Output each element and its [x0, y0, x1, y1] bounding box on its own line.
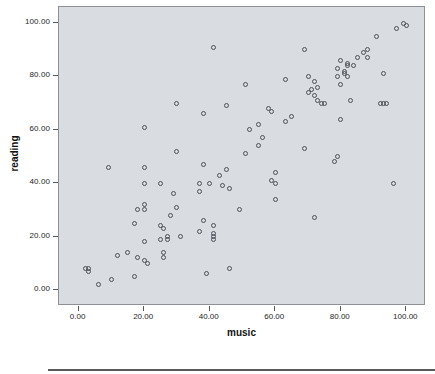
data-point [243, 151, 248, 156]
data-point [204, 271, 209, 276]
data-points-layer [59, 7, 424, 304]
data-point [335, 66, 340, 71]
footer-divider [48, 369, 435, 371]
data-point [381, 71, 386, 76]
data-point [132, 221, 137, 226]
data-point [247, 127, 252, 132]
data-point [211, 223, 216, 228]
data-point [404, 23, 409, 28]
data-point [345, 63, 350, 68]
plot-area [58, 6, 425, 305]
x-axis-tick [143, 306, 144, 311]
data-point [135, 255, 140, 260]
data-point [145, 261, 150, 266]
data-point [315, 85, 320, 90]
data-point [224, 103, 229, 108]
x-axis-tick-label: 20.00 [123, 312, 163, 321]
x-axis-title: music [58, 327, 425, 338]
x-axis-tick [340, 306, 341, 311]
data-point [256, 143, 261, 148]
data-point [142, 207, 147, 212]
data-point [322, 101, 327, 106]
y-axis-tick-label: 60.00 [29, 124, 50, 133]
data-point [211, 45, 216, 50]
data-point [273, 170, 278, 175]
data-point [165, 237, 170, 242]
data-point [158, 237, 163, 242]
x-axis-tick [209, 306, 210, 311]
x-axis-tick-label: 60.00 [254, 312, 294, 321]
data-point [201, 162, 206, 167]
data-point [312, 215, 317, 220]
data-point [115, 253, 120, 258]
data-point [161, 255, 166, 260]
y-axis-tick-label: 0.00 [34, 284, 50, 293]
x-axis-tick-label: 100.00 [385, 312, 425, 321]
data-point [309, 87, 314, 92]
data-point [312, 79, 317, 84]
data-point [260, 135, 265, 140]
data-point [237, 207, 242, 212]
data-point [283, 77, 288, 82]
data-point [217, 173, 222, 178]
data-point [211, 237, 216, 242]
x-axis-tick-label: 0.00 [58, 312, 98, 321]
y-axis-tick-label: 20.00 [29, 231, 50, 240]
data-point [335, 74, 340, 79]
data-point [273, 181, 278, 186]
data-point [197, 181, 202, 186]
data-point [348, 98, 353, 103]
data-point [201, 111, 206, 116]
data-point [96, 282, 101, 287]
data-point [227, 186, 232, 191]
data-point [197, 189, 202, 194]
data-point [365, 47, 370, 52]
data-point [125, 250, 130, 255]
data-point [227, 266, 232, 271]
data-point [338, 117, 343, 122]
y-axis-tick-label: 40.00 [29, 177, 50, 186]
data-point [224, 167, 229, 172]
data-point [142, 239, 147, 244]
data-point [338, 82, 343, 87]
data-point [365, 55, 370, 60]
data-point [174, 101, 179, 106]
data-point [345, 74, 350, 79]
data-point [106, 165, 111, 170]
scatter-plot-figure: 0.0020.0040.0060.0080.00100.00 reading 0… [0, 0, 435, 374]
data-point [355, 55, 360, 60]
data-point [351, 63, 356, 68]
data-point [306, 74, 311, 79]
y-axis-title: reading [9, 119, 20, 189]
data-point [338, 58, 343, 63]
y-axis-tick-label: 80.00 [29, 70, 50, 79]
data-point [174, 205, 179, 210]
data-point [220, 183, 225, 188]
data-point [312, 93, 317, 98]
data-point [273, 197, 278, 202]
data-point [391, 181, 396, 186]
x-axis-tick [78, 306, 79, 311]
data-point [302, 47, 307, 52]
data-point [289, 114, 294, 119]
data-point [142, 202, 147, 207]
data-point [201, 218, 206, 223]
data-point [161, 226, 166, 231]
data-point [384, 101, 389, 106]
data-point [168, 213, 173, 218]
data-point [142, 165, 147, 170]
data-point [86, 269, 91, 274]
data-point [283, 119, 288, 124]
x-axis-tick [405, 306, 406, 311]
data-point [142, 125, 147, 130]
data-point [335, 154, 340, 159]
data-point [171, 191, 176, 196]
data-point [394, 26, 399, 31]
data-point [374, 34, 379, 39]
data-point [207, 181, 212, 186]
data-point [132, 274, 137, 279]
data-point [243, 82, 248, 87]
data-point [269, 109, 274, 114]
x-axis-tick-label: 40.00 [189, 312, 229, 321]
data-point [142, 181, 147, 186]
